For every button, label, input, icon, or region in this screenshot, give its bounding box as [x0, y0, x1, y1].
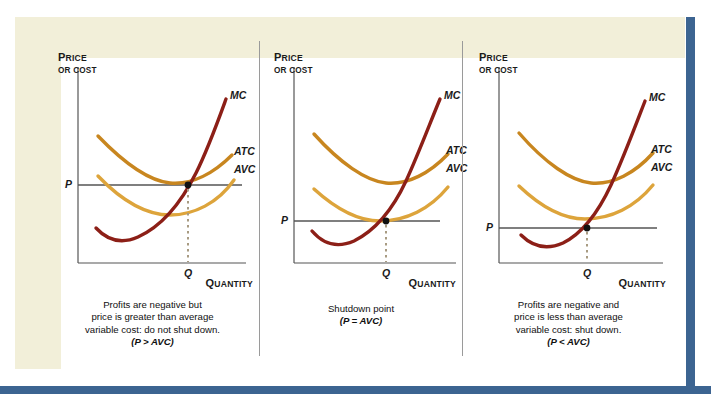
atc-curve [314, 134, 448, 183]
caption-line: Shutdown point [328, 303, 394, 314]
atc-curve [519, 133, 653, 183]
mc-curve [312, 99, 440, 245]
plot-area-3: PRICE or Cost QUANTITY P Q MC ATC AVC [463, 41, 674, 297]
caption-line: price is greater than average [91, 311, 213, 322]
mc-curve-label: MC [649, 91, 665, 103]
atc-curve [98, 136, 232, 183]
panel-caption-2: Shutdown point (P = AVC) [260, 303, 462, 328]
avc-curve [519, 185, 653, 219]
bottom-blue-rule [0, 386, 711, 394]
panel-profits-negative-price-above-avc: PRICE or Cost QUANTITY P Q MC ATC AVC Pr… [46, 41, 259, 356]
caption-line: Profits are negative but [103, 299, 202, 310]
quantity-tick-label: Q [583, 267, 591, 279]
avc-curve-label: AVC [651, 161, 672, 173]
caption-line: price is less than average [514, 311, 623, 322]
mc-curve [96, 99, 226, 241]
x-axis-label-quantity: QUANTITY [409, 273, 456, 291]
y-axis-label-or-cost: or Cost [479, 59, 518, 77]
caption-line: Profits are negative and [518, 299, 619, 310]
mc-curve-label: MC [230, 89, 246, 101]
mc-curve-label: MC [444, 89, 460, 101]
price-tick-label: P [281, 214, 288, 226]
quantity-tick-label: Q [382, 267, 390, 279]
caption-line: variable cost: do not shut down. [85, 324, 220, 335]
quantity-tick-label: Q [184, 267, 192, 279]
x-axis-label-quantity: QUANTITY [206, 273, 253, 291]
price-tick-label: P [65, 178, 72, 190]
atc-curve-label: ATC [234, 145, 255, 157]
panel-caption-1: Profits are negative but price is greate… [46, 299, 259, 349]
x-axis-label-quantity: QUANTITY [619, 273, 666, 291]
right-blue-rule [686, 17, 695, 394]
panel-shutdown-point: PRICE or Cost QUANTITY P Q MC ATC AVC Sh… [259, 41, 462, 356]
panel-caption-3: Profits are negative and price is less t… [463, 299, 674, 349]
cost-curve-chart-1 [46, 41, 259, 297]
price-tick-label: P [486, 221, 493, 233]
panel-profits-negative-price-below-avc: PRICE or Cost QUANTITY P Q MC ATC AVC Pr… [462, 41, 674, 356]
atc-curve-label: ATC [651, 143, 672, 155]
panel-row: PRICE or Cost QUANTITY P Q MC ATC AVC Pr… [46, 41, 674, 356]
equilibrium-point [584, 225, 591, 232]
equilibrium-point [185, 182, 192, 189]
caption-line: variable cost: shut down. [516, 324, 622, 335]
cost-curve-chart-3 [463, 41, 675, 297]
plot-area-2: PRICE or Cost QUANTITY P Q MC ATC AVC [260, 41, 462, 297]
avc-curve-label: AVC [234, 163, 255, 175]
caption-condition: (P > AVC) [46, 336, 259, 348]
caption-condition: (P = AVC) [260, 315, 462, 327]
caption-condition: (P < AVC) [463, 336, 674, 348]
avc-curve [314, 187, 448, 221]
equilibrium-point [383, 218, 390, 225]
plot-area-1: PRICE or Cost QUANTITY P Q MC ATC AVC [46, 41, 259, 297]
y-axis-label-or-cost: or Cost [274, 59, 313, 77]
y-axis-label-or-cost: or Cost [58, 59, 97, 77]
cost-curve-chart-2 [260, 41, 463, 297]
